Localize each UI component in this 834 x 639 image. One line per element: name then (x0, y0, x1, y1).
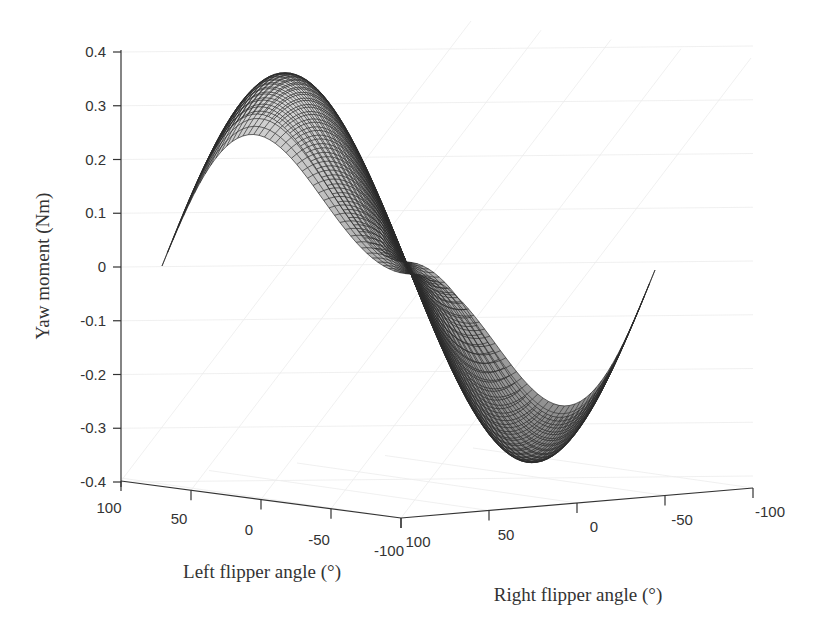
z-grid-line (121, 476, 753, 482)
x-tick-label: -50 (308, 531, 330, 548)
z-tick-label: 0 (98, 258, 106, 275)
x-tick-label: 50 (171, 510, 188, 527)
y-axis-ticks: 100500-50-100 (401, 488, 785, 550)
y-grid-line (297, 463, 577, 503)
z-tick-label: -0.4 (80, 473, 106, 490)
z-grid-line (121, 100, 753, 106)
z-tick-label: -0.2 (80, 366, 106, 383)
z-grid-line (121, 46, 753, 52)
z-tick-label: 0.4 (85, 43, 106, 60)
y-tick-label: -50 (671, 511, 693, 528)
x-axis-ticks: 100500-50-100 (96, 481, 404, 559)
z-tick-label: -0.3 (80, 419, 106, 436)
surface-plot: 0.40.30.20.10-0.1-0.2-0.3-0.4 100500-50-… (0, 0, 834, 639)
y-grid-line (209, 471, 489, 511)
surface-mesh (162, 73, 655, 463)
y-tick-label: 100 (405, 533, 430, 550)
z-tick-label: 0.3 (85, 97, 106, 114)
z-tick-label: 0.2 (85, 151, 106, 168)
x-grid-line (401, 58, 751, 518)
z-grid-line (121, 422, 753, 428)
z-grid-line (121, 207, 753, 213)
y-tick-label: 0 (590, 518, 598, 535)
z-tick-label: 0.1 (85, 204, 106, 221)
z-axis-title: Yaw moment (Nm) (32, 193, 54, 340)
x-tick-label: 0 (245, 521, 253, 538)
x-tick-label: 100 (96, 499, 121, 516)
z-axis-ticks: 0.40.30.20.10-0.1-0.2-0.3-0.4 (80, 43, 121, 490)
y-tick-label: 50 (498, 526, 515, 543)
y-tick-label: -100 (755, 503, 785, 520)
grid-lines (121, 21, 753, 518)
x-tick-label: -100 (374, 542, 404, 559)
z-grid-line (121, 261, 753, 267)
x-axis-title: Left flipper angle (°) (183, 561, 341, 583)
z-tick-label: -0.1 (80, 312, 106, 329)
y-axis-title: Right flipper angle (°) (494, 584, 663, 606)
